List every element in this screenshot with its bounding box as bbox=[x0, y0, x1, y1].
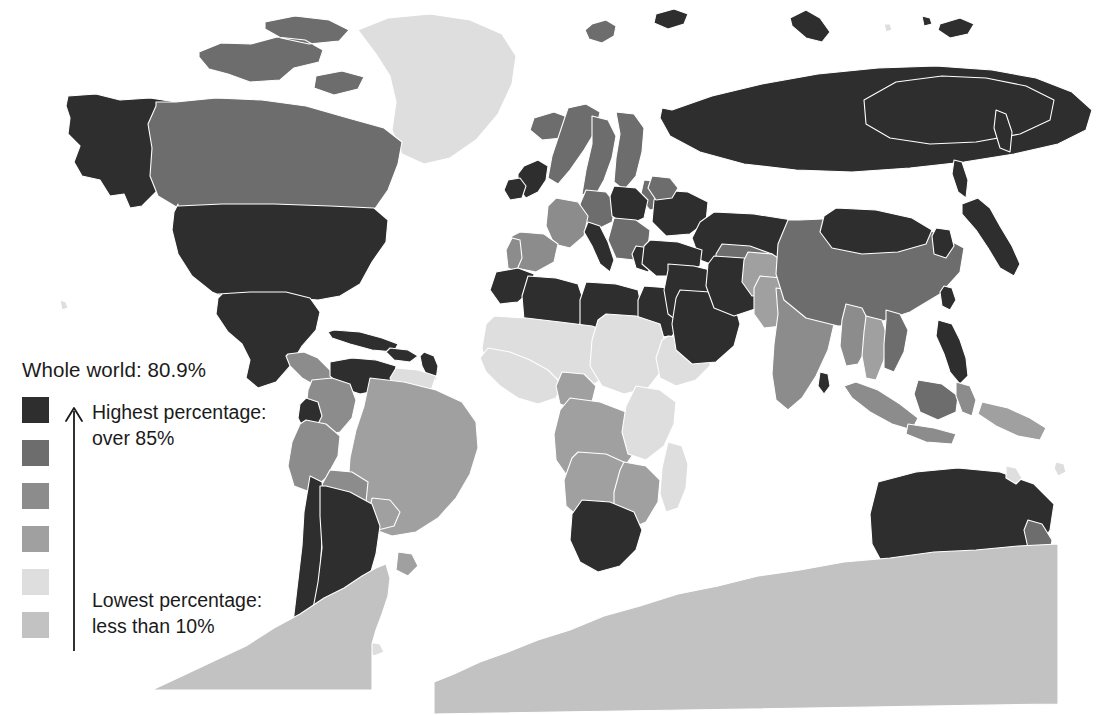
legend-world-total: Whole world: 80.9% bbox=[22, 360, 350, 381]
legend-swatch-low bbox=[22, 569, 49, 595]
legend-arrow-axis bbox=[64, 401, 84, 653]
legend-label-highest: Highest percentage: over 85% bbox=[92, 399, 267, 453]
map-legend: Whole world: 80.9% Highest percentage: o… bbox=[20, 360, 350, 655]
world-map-figure: .land{ stroke:#ffffff; stroke-width:1.1;… bbox=[0, 0, 1100, 715]
legend-label-highest-line1: Highest percentage: bbox=[92, 399, 267, 426]
region-island-dot-1 bbox=[884, 24, 892, 32]
legend-swatch-mid-high bbox=[22, 483, 49, 509]
legend-body: Highest percentage: over 85% Lowest perc… bbox=[20, 397, 350, 655]
legend-label-lowest-line2: less than 10% bbox=[92, 613, 262, 640]
legend-swatch-high bbox=[22, 440, 49, 466]
legend-swatch-no-data bbox=[22, 612, 49, 638]
legend-swatch-highest bbox=[22, 397, 49, 423]
legend-label-lowest: Lowest percentage: less than 10% bbox=[92, 587, 262, 641]
legend-swatch-column bbox=[22, 397, 50, 638]
legend-swatch-mid-low bbox=[22, 526, 49, 552]
legend-label-lowest-line1: Lowest percentage: bbox=[92, 587, 262, 614]
legend-label-highest-line2: over 85% bbox=[92, 425, 267, 452]
